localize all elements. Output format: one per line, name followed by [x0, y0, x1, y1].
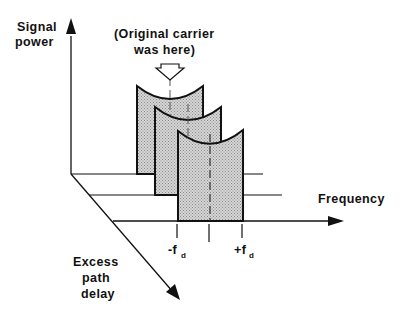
- spectrum-panel-front: [178, 130, 243, 221]
- annotation-line-1: (Original carrier: [114, 27, 215, 41]
- frequency-ticks: [177, 224, 242, 242]
- delay-label-line-3: delay: [81, 287, 115, 301]
- arrowhead-up-icon: [66, 18, 76, 34]
- arrowhead-right-icon: [328, 216, 344, 226]
- hollow-down-arrow-icon: [156, 64, 184, 80]
- frequency-axis-label: Frequency: [318, 192, 385, 206]
- tick-label-plus-fd: +f d: [234, 243, 254, 260]
- annotation-line-2: was here): [133, 43, 195, 57]
- delay-label-line-2: path: [82, 271, 110, 285]
- svg-text:+f: +f: [234, 243, 247, 257]
- svg-text:d: d: [249, 251, 254, 260]
- signal-power-label-line-1: Signal: [17, 20, 57, 34]
- delay-label-line-1: Excess: [73, 255, 119, 269]
- svg-text:-f: -f: [168, 243, 178, 257]
- svg-text:d: d: [181, 251, 186, 260]
- doppler-spectrum-diagram: Signal power (Original carrier was here)…: [0, 0, 404, 317]
- signal-power-label-line-2: power: [15, 35, 54, 49]
- signal-power-axis: [66, 18, 76, 174]
- tick-label-minus-fd: -f d: [168, 243, 186, 260]
